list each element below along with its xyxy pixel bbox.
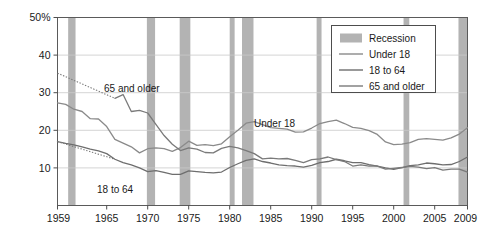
x-axis-tick-label: 1975 [177,212,201,224]
y-axis-tick-label: 30 [39,86,51,98]
x-axis-tick-label: 1985 [259,212,283,224]
x-axis-tick-label: 2000 [382,212,406,224]
recession-band [317,18,322,206]
x-axis-tick-label: 1970 [136,212,160,224]
poverty-rate-by-age-chart: 1020304050% 1959196519701975198019851990… [0,0,489,251]
chart-legend: RecessionUnder 1818 to 6465 and older [332,26,436,93]
chart-canvas: 1020304050% 1959196519701975198019851990… [0,0,489,251]
x-axis-tick-label: 2009 [454,212,478,224]
y-axis-tick-label: 10 [39,162,51,174]
legend-label-recession: Recession [369,33,416,44]
x-axis-tick-label: 1959 [47,212,71,224]
x-axis-tick-label: 2005 [423,212,447,224]
recession-band [458,18,467,206]
recession-band [180,18,191,206]
y-axis-tick-label: 50% [29,11,50,23]
legend-label-65-and-older: 65 and older [369,81,425,92]
x-axis-tick-label: 1965 [95,212,119,224]
x-axis-tick-label: 1995 [341,212,365,224]
recession-band [147,18,155,206]
legend-swatch-recession [340,34,362,43]
legend-label-18-to-64: 18 to 64 [369,65,406,76]
y-axis-tick-label: 40 [39,49,51,61]
x-axis-tick-label: 1980 [218,212,242,224]
x-axis-tick-label: 1990 [300,212,324,224]
recession-band [242,18,253,206]
recession-band [68,18,75,206]
annotation-65-and-older: 65 and older [104,83,160,94]
y-axis-tick-label: 20 [39,124,51,136]
recession-band [230,18,235,206]
legend-label-under-18: Under 18 [369,49,411,60]
annotation-under-18: Under 18 [254,118,296,129]
annotation-18-to-64: 18 to 64 [97,184,134,195]
